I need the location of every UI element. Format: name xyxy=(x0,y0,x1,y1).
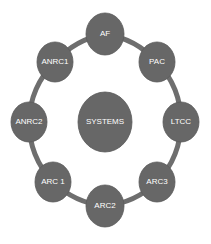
node-label-arc1: ARC 1 xyxy=(41,177,65,186)
center-node: SYSTEMS xyxy=(78,92,132,152)
node-arc1: ARC 1 xyxy=(35,162,71,202)
node-label-af: AF xyxy=(100,29,110,38)
node-label-anrc1: ANRC1 xyxy=(41,57,69,66)
node-ltcc: LTCC xyxy=(163,102,199,142)
node-label-anrc2: ANRC2 xyxy=(15,117,43,126)
systems-node-label: SYSTEMS xyxy=(86,117,124,126)
node-label-arc2: ARC2 xyxy=(94,201,116,210)
systems-ring-diagram: AFPACLTCCARC3ARC2ARC 1ANRC2ANRC1 SYSTEMS xyxy=(0,0,211,244)
node-af: AF xyxy=(86,13,124,55)
node-pac: PAC xyxy=(139,42,175,82)
node-label-arc3: ARC3 xyxy=(146,177,168,186)
node-label-ltcc: LTCC xyxy=(171,117,192,126)
node-anrc1: ANRC1 xyxy=(37,42,73,82)
node-anrc2: ANRC2 xyxy=(11,102,47,142)
node-arc2: ARC2 xyxy=(86,185,124,227)
node-label-pac: PAC xyxy=(149,57,165,66)
node-arc3: ARC3 xyxy=(139,162,175,202)
